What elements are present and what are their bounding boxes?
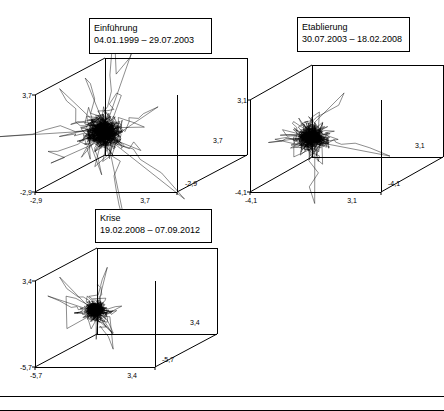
axis-depth-top-left [250, 65, 312, 100]
ticklabel-z-min: -4,1 [388, 180, 400, 187]
panel-krise: 3,4-5,7-5,73,4-5,73,4Krise19.02.2008 – 0… [20, 209, 217, 379]
ticklabel-z-min: -5,7 [162, 356, 174, 363]
panel-subtitle: 30.07.2003 – 18.02.2008 [302, 34, 402, 44]
ticklabel-z-min: -2,9 [185, 180, 197, 187]
panel-etablierung: 3,1-4,1-4,13,1-4,13,1Etablierung30.07.20… [235, 17, 443, 204]
ticklabel-x-max: 3,7 [140, 197, 150, 204]
axis-depth-top-left [35, 248, 97, 281]
figure-container: 3,7-2,9-2,93,7-2,93,7Einführung04.01.199… [0, 0, 444, 411]
ticklabel-z-max: 3,7 [213, 137, 223, 144]
trajectory-path [48, 267, 122, 349]
axis-depth-top-left [35, 58, 105, 95]
ticklabel-z-max: 3,1 [415, 142, 425, 149]
ticklabel-x-min: -5,7 [30, 372, 42, 379]
ticklabel-y-max: 3,1 [237, 97, 247, 104]
ticklabel-x-max: 3,4 [127, 372, 137, 379]
ticklabel-y-max: 3,7 [22, 92, 32, 99]
axis-depth-left [35, 155, 105, 192]
ticklabel-z-max: 3,4 [190, 319, 200, 326]
axis-depth-left [250, 157, 312, 192]
axis-depth-left [35, 334, 97, 367]
ticklabel-y-min: -5,7 [20, 364, 32, 371]
trajectory-path [0, 29, 185, 237]
ticklabel-y-min: -2,9 [20, 189, 32, 196]
panel-subtitle: 04.01.1999 – 29.07.2003 [94, 35, 194, 45]
figure-svg: 3,7-2,9-2,93,7-2,93,7Einführung04.01.199… [0, 0, 444, 411]
ticklabel-x-min: -2,9 [30, 197, 42, 204]
ticklabel-x-max: 3,1 [347, 197, 357, 204]
trajectory-path [268, 93, 390, 204]
panel-title: Etablierung [302, 22, 348, 32]
panel-title: Krise [100, 213, 121, 223]
panel-einfuehrung: 3,7-2,9-2,93,7-2,93,7Einführung04.01.199… [0, 18, 247, 237]
ticklabel-y-min: -4,1 [235, 189, 247, 196]
ticklabel-x-min: -4,1 [245, 197, 257, 204]
panel-subtitle: 19.02.2008 – 07.09.2012 [100, 225, 200, 235]
panel-title: Einführung [94, 23, 138, 33]
footer-rules [0, 396, 444, 410]
ticklabel-y-max: 3,4 [22, 278, 32, 285]
